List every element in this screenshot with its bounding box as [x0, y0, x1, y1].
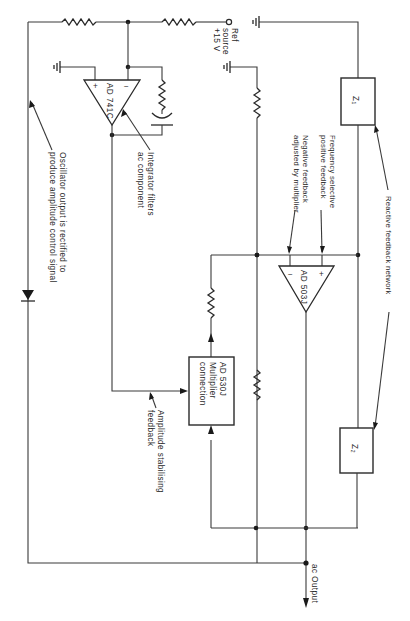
z2-impedance: Z₂ — [340, 428, 373, 473]
svg-text:ac component: ac component — [136, 152, 145, 209]
svg-text:Z₁: Z₁ — [351, 96, 360, 105]
svg-text:+: + — [319, 270, 324, 279]
svg-text:adjusted by multiplier: adjusted by multiplier — [292, 135, 301, 213]
opamp-ad503j: − + AD 503J — [279, 266, 334, 312]
svg-text:+: + — [93, 82, 98, 91]
circuit-diagram: Ref source +15 V + − AD 741C Integrator … — [0, 0, 410, 621]
resistor-r3 — [254, 88, 260, 118]
svg-text:AD 741C: AD 741C — [105, 83, 114, 119]
svg-text:−: − — [124, 82, 129, 91]
svg-text:AD 530J: AD 530J — [218, 362, 227, 396]
ac-output-label: ac Output — [310, 564, 319, 603]
svg-text:connection: connection — [198, 362, 207, 406]
multiplier-ad530j: AD 530J Multiplier connection — [189, 357, 234, 425]
svg-text:produce amplitude control sign: produce amplitude control signal — [48, 152, 57, 283]
reactive-network-annotation: Reactive feedback network — [384, 196, 393, 295]
opamp-ad741c: + − AD 741C — [84, 80, 140, 125]
ground-icon — [224, 61, 257, 88]
svg-text:source: source — [221, 28, 230, 55]
svg-text:Amplitude stabilising: Amplitude stabilising — [156, 410, 165, 493]
top-wire — [28, 19, 232, 25]
positive-feedback-annotation: Frequency selective positive feedback — [319, 135, 337, 208]
ground-icon — [54, 61, 95, 80]
resistor-r5 — [208, 288, 214, 318]
output-arrow — [303, 598, 309, 608]
svg-text:+15 V: +15 V — [212, 28, 221, 52]
negative-feedback-annotation: Negative feedback adjusted by multiplier — [292, 135, 310, 213]
ref-source-label: Ref source +15 V — [212, 28, 239, 55]
ref-terminal — [226, 19, 231, 24]
svg-text:Multiplier: Multiplier — [208, 362, 217, 399]
integrator-annotation: Integrator filters ac component — [136, 152, 155, 216]
amplitude-feedback-annotation: Amplitude stabilising feedback — [146, 410, 165, 493]
svg-text:Oscillator output is rectified: Oscillator output is rectified to — [58, 152, 67, 273]
svg-text:Reactive feedback network: Reactive feedback network — [384, 196, 393, 295]
svg-text:AD 503J: AD 503J — [299, 270, 308, 304]
z1-impedance: Z₁ — [341, 78, 375, 125]
left-feedback-wire — [28, 22, 306, 563]
svg-text:feedback: feedback — [146, 410, 155, 447]
resistor-integrator — [159, 80, 165, 110]
svg-text:Z₂: Z₂ — [350, 444, 359, 453]
resistor-r2 — [162, 19, 196, 25]
svg-text:Integrator filters: Integrator filters — [146, 152, 155, 216]
oscillator-annotation: Oscillator output is rectified to produc… — [48, 152, 67, 283]
svg-text:positive feedback: positive feedback — [319, 135, 328, 199]
ground-icon — [253, 16, 358, 78]
svg-text:Frequency selective: Frequency selective — [328, 135, 337, 208]
svg-text:ac Output: ac Output — [310, 564, 319, 603]
diode-icon — [21, 290, 35, 301]
svg-text:−: − — [288, 270, 293, 279]
svg-text:Negative feedback: Negative feedback — [301, 135, 310, 203]
svg-text:Ref: Ref — [230, 28, 239, 42]
resistor-r1 — [62, 19, 96, 25]
